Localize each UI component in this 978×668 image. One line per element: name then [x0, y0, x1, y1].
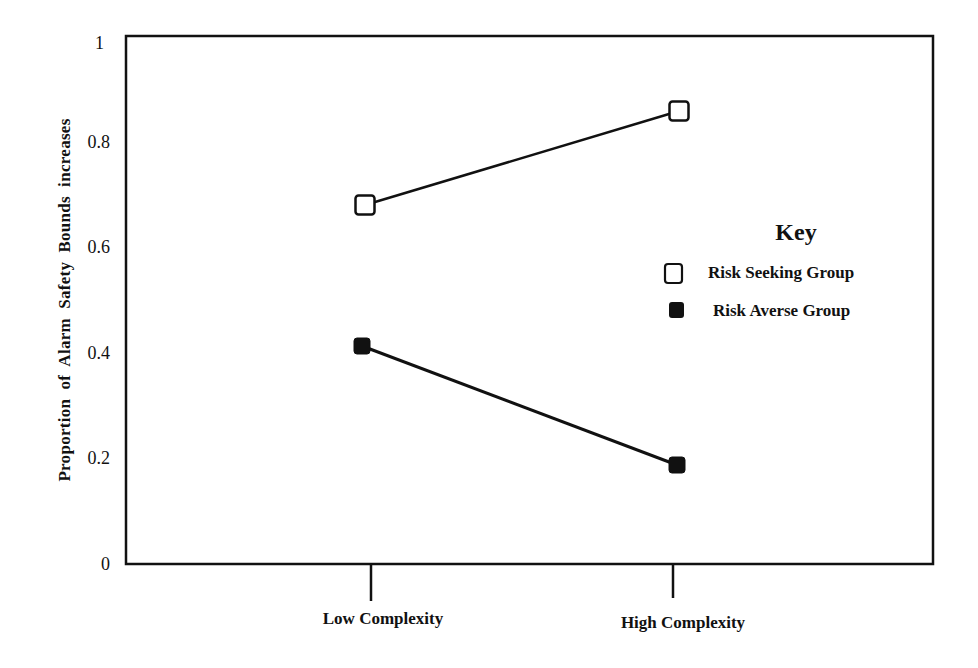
y-tick-label: 0.4: [88, 343, 111, 363]
legend-filled-square-icon: [669, 302, 684, 318]
x-category-label: Low Complexity: [323, 609, 444, 628]
y-axis-title: Proportion of Alarm Safety Bounds increa…: [55, 118, 74, 481]
legend-label: Risk Averse Group: [713, 301, 850, 320]
y-tick-label: 0.6: [88, 237, 111, 257]
x-category-label: High Complexity: [621, 613, 746, 632]
series-risk-seeking: [356, 102, 689, 215]
filled-square-marker: [354, 338, 370, 354]
legend-open-square-icon: [665, 264, 682, 283]
y-tick-label: 0: [101, 554, 110, 574]
filled-square-marker: [669, 457, 685, 473]
legend-title: Key: [775, 219, 816, 245]
line-chart: 0 0.2 0.4 0.6 0.8 1 Proportion of Alarm …: [0, 0, 978, 668]
series-risk-averse: [354, 338, 685, 473]
open-square-marker: [356, 196, 375, 215]
series-line: [362, 346, 677, 465]
legend-label: Risk Seeking Group: [708, 263, 854, 282]
y-axis: 0 0.2 0.4 0.6 0.8 1: [88, 33, 111, 574]
legend: Key Risk Seeking Group Risk Averse Group: [665, 219, 854, 320]
x-axis: Low Complexity High Complexity: [323, 564, 746, 632]
y-tick-label: 1: [95, 33, 104, 53]
plot-frame: [126, 36, 933, 564]
series-line: [365, 111, 679, 205]
y-tick-label: 0.8: [88, 132, 111, 152]
y-tick-label: 0.2: [88, 448, 111, 468]
open-square-marker: [670, 102, 689, 121]
